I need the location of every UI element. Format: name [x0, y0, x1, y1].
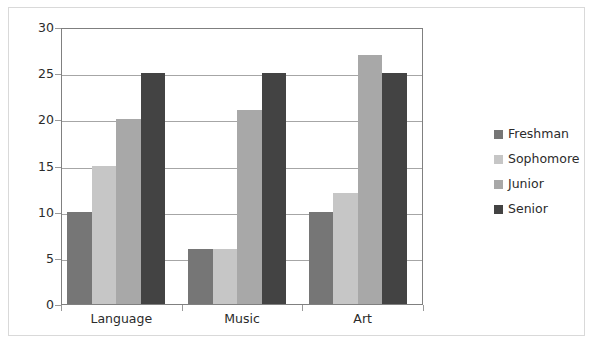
y-axis-tick-label: 30 — [12, 22, 54, 35]
legend-swatch-icon — [494, 205, 503, 214]
legend-label: Sophomore — [508, 153, 579, 166]
bar — [116, 119, 141, 304]
x-axis-category-label: Music — [182, 312, 303, 326]
legend-swatch-icon — [494, 180, 503, 189]
bar — [92, 166, 117, 305]
x-axis-category-label: Art — [302, 312, 423, 326]
x-axis-tick-mark — [182, 305, 183, 311]
plot-area — [61, 28, 423, 305]
bar — [309, 212, 334, 304]
legend-swatch-icon — [494, 130, 503, 139]
bar — [262, 73, 287, 304]
x-axis-tick-mark — [61, 305, 62, 311]
bar — [141, 73, 166, 304]
bar — [213, 249, 238, 304]
legend-swatch-icon — [494, 155, 503, 164]
bar — [333, 193, 358, 304]
x-axis-category-label: Language — [61, 312, 182, 326]
bar — [188, 249, 213, 304]
bar — [358, 55, 383, 304]
legend-item[interactable]: Sophomore — [494, 147, 584, 172]
y-axis: 051015202530 — [6, 28, 54, 305]
legend-label: Senior — [508, 203, 548, 216]
y-axis-tick-label: 0 — [12, 299, 54, 312]
legend-item[interactable]: Senior — [494, 197, 584, 222]
x-axis-tick-mark — [302, 305, 303, 311]
y-axis-tick-label: 5 — [12, 253, 54, 266]
y-axis-tick-label: 20 — [12, 114, 54, 127]
legend-label: Junior — [508, 178, 544, 191]
legend: FreshmanSophomoreJuniorSenior — [494, 122, 584, 222]
y-axis-tick-label: 25 — [12, 68, 54, 81]
legend-item[interactable]: Freshman — [494, 122, 584, 147]
legend-label: Freshman — [508, 128, 569, 141]
bars-layer — [62, 29, 422, 304]
bar-chart-figure: 051015202530 LanguageMusicArt FreshmanSo… — [0, 0, 594, 344]
bar — [67, 212, 92, 304]
bar — [237, 110, 262, 304]
y-axis-tick-label: 15 — [12, 160, 54, 173]
x-axis-tick-mark — [423, 305, 424, 311]
legend-item[interactable]: Junior — [494, 172, 584, 197]
y-axis-tick-label: 10 — [12, 206, 54, 219]
bar — [382, 73, 407, 304]
